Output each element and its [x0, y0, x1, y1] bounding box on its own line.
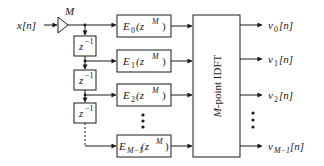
output-label-v0: v 0 [n]: [268, 19, 293, 34]
svg-text:[n]: [n]: [279, 89, 293, 101]
svg-text:E: E: [122, 55, 130, 67]
svg-text:(z: (z: [136, 20, 145, 33]
delay-block-1: z −1: [74, 36, 96, 56]
idft-label: -point IDFT: [211, 54, 223, 108]
filter-block-E2: E 2 (z M ): [117, 84, 171, 106]
svg-text:E: E: [122, 89, 130, 101]
svg-text:M: M: [151, 86, 160, 95]
svg-text:v: v: [268, 89, 273, 101]
svg-text:E: E: [118, 140, 126, 152]
svg-text:−1: −1: [85, 37, 94, 46]
svg-text:0: 0: [131, 26, 135, 35]
svg-text:1: 1: [274, 59, 278, 68]
filter-block-E1: E 1 (z M ): [117, 50, 171, 72]
svg-text:M: M: [151, 52, 160, 61]
svg-text:−1: −1: [85, 71, 94, 80]
svg-text:M: M: [151, 17, 160, 26]
svg-text:(z: (z: [141, 140, 150, 153]
input-label: x[n]: [16, 19, 36, 31]
svg-text:[n]: [n]: [279, 19, 293, 31]
svg-text:M−1: M−1: [273, 146, 290, 155]
svg-text:): ): [162, 20, 166, 33]
svg-text:(z: (z: [136, 89, 145, 102]
svg-text:z: z: [78, 40, 84, 52]
svg-text:z: z: [78, 74, 84, 86]
svg-text:[n]: [n]: [279, 53, 293, 65]
filter-block-E0: E 0 (z M ): [117, 15, 171, 37]
svg-text:): ): [165, 140, 169, 153]
delay-block-3: z −1: [74, 103, 96, 123]
svg-text:): ): [162, 55, 166, 68]
output-ellipsis: [251, 111, 254, 128]
svg-text:E: E: [122, 20, 130, 32]
filter-ellipsis: [141, 113, 144, 128]
svg-text:v: v: [268, 19, 273, 31]
polyphase-filter-bank-diagram: x[n] M z −1 z −1 z −1 E 0 (z M ): [0, 0, 324, 166]
gain-triangle-icon: [58, 17, 68, 33]
svg-text:M: M: [155, 137, 164, 146]
svg-text:2: 2: [131, 95, 135, 104]
svg-text:[n]: [n]: [290, 140, 304, 152]
idft-block: M-point IDFT: [193, 15, 240, 157]
delay-block-2: z −1: [74, 70, 96, 90]
svg-text:v: v: [268, 53, 273, 65]
gain-label: M: [64, 5, 75, 17]
svg-text:−1: −1: [85, 104, 94, 113]
svg-text:1: 1: [131, 61, 135, 70]
svg-text:v: v: [268, 140, 273, 152]
svg-text:(z: (z: [136, 55, 145, 68]
svg-text:2: 2: [274, 95, 278, 104]
svg-text:0: 0: [274, 25, 278, 34]
output-label-v1: v 1 [n]: [268, 53, 293, 68]
filter-block-EM-1: E M−1 (z M ): [117, 135, 171, 157]
output-label-vM-1: v M−1 [n]: [268, 140, 304, 155]
output-label-v2: v 2 [n]: [268, 89, 293, 104]
svg-text:z: z: [78, 107, 84, 119]
svg-text:): ): [162, 89, 166, 102]
svg-text:M-point IDFT: M-point IDFT: [211, 54, 223, 118]
